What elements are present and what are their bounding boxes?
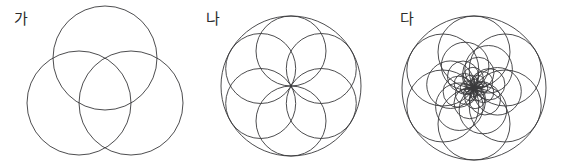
figure-da-group (0, 0, 572, 168)
illustration-canvas: 가 나 다 (0, 0, 572, 168)
figure-da-label: 다 (400, 12, 414, 27)
figure-da-drawing (0, 0, 572, 168)
